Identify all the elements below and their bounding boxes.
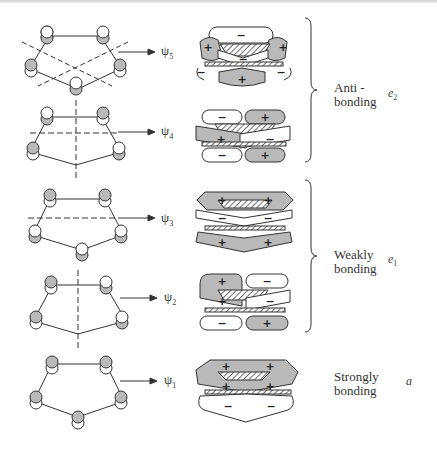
brace-weakly-bonding: [305, 180, 317, 332]
antibonding-label: Anti -bonding: [334, 81, 377, 109]
svg-text:−: −: [238, 53, 247, 66]
psi5-label: ψ5: [161, 43, 173, 61]
psi3-label: ψ3: [161, 210, 173, 228]
svg-text:−: −: [217, 111, 226, 124]
svg-text:−: −: [217, 317, 226, 330]
svg-text:−: −: [265, 133, 274, 146]
svg-text:+: +: [221, 380, 230, 393]
psi2-label: ψ2: [164, 289, 176, 307]
svg-text:−: −: [223, 400, 232, 413]
svg-text:−: −: [263, 212, 272, 225]
svg-text:+: +: [217, 236, 226, 249]
svg-text:+: +: [217, 275, 226, 288]
psi1-label: ψ1: [164, 372, 176, 390]
svg-text:−: −: [217, 149, 226, 162]
svg-text:−: −: [196, 66, 205, 79]
brace-antibonding: [305, 18, 317, 162]
psi4-label: ψ4: [161, 123, 173, 141]
svg-text:+: +: [262, 317, 271, 330]
lobes-psi3: [196, 192, 293, 252]
svg-text:+: +: [203, 41, 212, 54]
ring-psi3: [28, 189, 155, 261]
svg-text:−: −: [266, 400, 275, 413]
svg-text:+: +: [265, 380, 274, 393]
svg-text:+: +: [221, 360, 230, 373]
svg-text:−: −: [236, 29, 245, 42]
e1-symmetry-label: e1: [388, 252, 397, 268]
svg-text:+: +: [217, 194, 226, 207]
e2-symmetry-label: e2: [388, 86, 397, 102]
strongly-bonding-label: Stronglybonding: [334, 370, 379, 398]
svg-text:+: +: [278, 41, 287, 54]
svg-text:+: +: [217, 295, 226, 308]
ring-psi4: [27, 100, 155, 178]
svg-text:−: −: [217, 212, 226, 225]
svg-text:+: +: [263, 194, 272, 207]
svg-text:+: +: [216, 133, 225, 146]
svg-text:−: −: [265, 295, 274, 308]
svg-text:+: +: [265, 360, 274, 373]
svg-text:−: −: [276, 66, 285, 79]
ring-psi5: [22, 26, 155, 95]
svg-text:+: +: [237, 73, 246, 86]
svg-text:−: −: [262, 275, 271, 288]
ring-psi1: [30, 356, 157, 429]
lobes-psi1: [196, 360, 298, 422]
lobes-psi4: [196, 110, 290, 162]
atom: [41, 26, 53, 44]
weakly-bonding-label: Weaklybonding: [334, 248, 377, 276]
svg-text:+: +: [260, 149, 269, 162]
svg-text:+: +: [260, 111, 269, 124]
a-symmetry-label: a: [406, 374, 412, 390]
ring-psi2: [30, 270, 157, 348]
lobes-psi2: [200, 274, 290, 330]
svg-text:+: +: [263, 236, 272, 249]
